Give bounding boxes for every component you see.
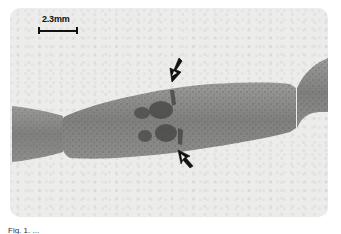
- micrograph-figure: 2.3mm Fig. 1. ...: [0, 0, 341, 234]
- scale-bar-label: 2.3mm: [42, 14, 70, 24]
- scale-bar-cap-right: [76, 27, 78, 34]
- right-segment: [297, 58, 328, 128]
- scale-bar-cap-left: [38, 27, 40, 34]
- scale-bar: 2.3mm: [38, 14, 80, 36]
- dark-patch: [134, 107, 150, 119]
- upper-arrow-icon: [170, 58, 182, 82]
- dark-patch: [149, 101, 173, 119]
- dark-patch: [138, 130, 152, 142]
- left-segment: [12, 106, 63, 162]
- main-segment: [62, 83, 296, 159]
- figure-caption: Fig. 1. ...: [8, 226, 39, 234]
- dark-patch: [155, 124, 177, 142]
- lower-arrow-icon: [178, 150, 193, 168]
- scale-bar-line: [38, 30, 78, 32]
